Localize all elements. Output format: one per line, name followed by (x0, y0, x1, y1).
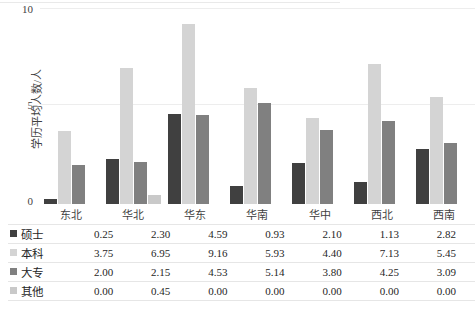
table-cell: 2.10 (304, 224, 361, 243)
legend-item-其他[interactable]: 其他 (10, 281, 72, 300)
x-axis-label: 东北 (40, 206, 102, 222)
legend-label: 其他 (21, 283, 43, 299)
table-cell: 1.13 (361, 224, 418, 243)
table-row: 大专2.002.154.535.143.804.253.09 (0, 262, 475, 281)
bar-group (164, 8, 226, 204)
legend-label: 本科 (21, 245, 43, 261)
table-cell: 5.14 (246, 262, 303, 281)
bar (368, 64, 381, 204)
table-cell: 0.00 (418, 281, 475, 300)
y-tick-10: 10 (3, 4, 33, 15)
table-cell: 6.95 (132, 243, 189, 262)
bar-chart-with-data-table: 10 5 0 学历平均人数/人 东北华北华东华南华中西北西南 硕士0.252.3… (0, 0, 475, 309)
table-cell: 4.53 (189, 262, 246, 281)
top-border-artifact (0, 2, 340, 3)
bar-group (351, 8, 413, 204)
table-cell: 3.80 (304, 262, 361, 281)
table-row: 硕士0.252.304.590.932.101.132.82 (0, 224, 475, 243)
table-cell: 0.45 (132, 281, 189, 300)
table-cell: 4.25 (361, 262, 418, 281)
bar (196, 115, 209, 204)
legend-item-大专[interactable]: 大专 (10, 262, 72, 281)
legend-swatch-icon (10, 249, 17, 256)
bar (168, 114, 181, 204)
table-cell: 0.25 (75, 224, 132, 243)
x-axis-category-labels: 东北华北华东华南华中西北西南 (40, 204, 475, 224)
bar (320, 130, 333, 204)
legend-swatch-icon (10, 268, 17, 275)
bar (106, 159, 119, 204)
x-axis-label: 华北 (102, 206, 164, 222)
table-row: 其他0.000.450.000.000.000.000.00 (0, 281, 475, 300)
x-axis-label: 西北 (351, 206, 413, 222)
bar (244, 88, 257, 204)
bar-group (289, 8, 351, 204)
x-axis-label: 华东 (164, 206, 226, 222)
bar (416, 149, 429, 204)
bar (182, 24, 195, 204)
bar (306, 118, 319, 204)
table-cell: 2.82 (418, 224, 475, 243)
y-axis-title-holder: 学历平均人数/人 (2, 55, 16, 165)
x-axis-label: 西南 (413, 206, 475, 222)
table-cell: 2.00 (75, 262, 132, 281)
table-row: 本科3.756.959.165.934.407.135.45 (0, 243, 475, 262)
table-cell: 3.09 (418, 262, 475, 281)
legend-label: 硕士 (21, 226, 43, 242)
legend-swatch-icon (10, 230, 17, 237)
legend-item-硕士[interactable]: 硕士 (10, 224, 72, 243)
bar (148, 195, 161, 204)
table-cell: 2.15 (132, 262, 189, 281)
bar (230, 186, 243, 204)
bar-group (413, 8, 475, 204)
bar (134, 162, 147, 204)
table-cell: 3.75 (75, 243, 132, 262)
table-cell: 7.13 (361, 243, 418, 262)
bar-group (226, 8, 288, 204)
table-cell: 0.00 (75, 281, 132, 300)
table-cell: 0.00 (361, 281, 418, 300)
legend-swatch-icon (10, 287, 17, 294)
table-cell: 4.59 (189, 224, 246, 243)
table-cell: 0.93 (246, 224, 303, 243)
bar (444, 143, 457, 204)
x-axis-label: 华中 (289, 206, 351, 222)
legend-item-本科[interactable]: 本科 (10, 243, 72, 262)
bar (354, 182, 367, 204)
bar-group (102, 8, 164, 204)
legend-label: 大专 (21, 264, 43, 280)
table-cell: 0.00 (189, 281, 246, 300)
table-cell: 4.40 (304, 243, 361, 262)
table-cell: 5.45 (418, 243, 475, 262)
bar (292, 163, 305, 204)
plot-area (40, 8, 475, 204)
table-cell: 9.16 (189, 243, 246, 262)
table-cell: 2.30 (132, 224, 189, 243)
table-cell: 0.00 (304, 281, 361, 300)
bar (382, 121, 395, 204)
table-bottom-separator (8, 300, 475, 301)
bar-group (40, 8, 102, 204)
data-table: 硕士0.252.304.590.932.101.132.82本科3.756.95… (0, 224, 475, 309)
table-cell: 5.93 (246, 243, 303, 262)
bar (58, 131, 71, 205)
bar (258, 103, 271, 204)
bar-groups (40, 8, 475, 204)
x-axis-label: 华南 (226, 206, 288, 222)
bar (72, 165, 85, 204)
bar (120, 68, 133, 204)
bar (430, 97, 443, 204)
table-cell: 0.00 (246, 281, 303, 300)
y-tick-0: 0 (3, 196, 33, 207)
